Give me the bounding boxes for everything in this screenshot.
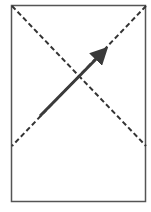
- arrow-icon: [40, 51, 104, 116]
- diagram-canvas: [0, 0, 151, 212]
- frame-rectangle: [12, 6, 146, 202]
